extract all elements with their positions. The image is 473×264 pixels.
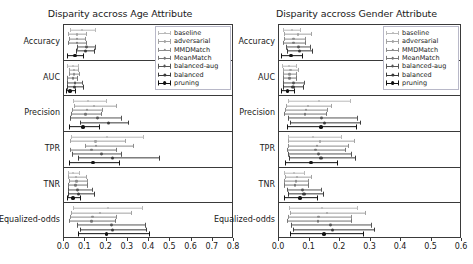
error-bar-cap-left (281, 53, 282, 58)
error-bar-cap-right (102, 108, 103, 112)
error-bar-cap-right (92, 187, 93, 192)
data-point-adversarial (94, 140, 96, 142)
error-bar-cap-left (69, 124, 70, 129)
data-point-adversarial (289, 69, 291, 71)
error-bar-cap-right (331, 104, 332, 108)
error-bar-cap-right (101, 112, 102, 116)
data-point-balanced (111, 228, 114, 231)
error-bar-cap-right (308, 183, 309, 187)
legend-item-balanced[interactable]: balanced (158, 70, 227, 78)
legend-item-pruning[interactable]: pruning (386, 79, 455, 87)
metric-label-precision: Precision (239, 108, 275, 117)
x-tick-label: 0.4 (142, 242, 155, 251)
error-bar-line (68, 185, 88, 186)
error-bar-line (284, 172, 304, 173)
error-bar-cap-right (106, 99, 107, 103)
error-bar-cap-left (70, 28, 71, 32)
legend-item-MeanMatch[interactable]: MeanMatch (386, 54, 455, 62)
error-bar-cap-left (284, 32, 285, 36)
data-point-MeanMatch (294, 184, 297, 187)
data-point-baseline (81, 29, 83, 31)
legend-item-MMDMatch[interactable]: MMDMatch (158, 46, 227, 54)
legend-item-MMDMatch[interactable]: MMDMatch (386, 46, 455, 54)
error-bar-cap-left (288, 192, 289, 197)
error-bar-cap-right (149, 231, 150, 236)
data-point-pruning (73, 54, 77, 58)
error-bar-cap-right (128, 120, 129, 125)
x-tick-label: 0.1 (78, 242, 91, 251)
data-point-baseline (318, 100, 320, 102)
error-bar-cap-right (294, 89, 295, 94)
error-bar-line (80, 122, 129, 123)
metric-label-accuracy: Accuracy (238, 37, 275, 46)
error-bar-line (288, 141, 355, 142)
data-point-adversarial (319, 140, 321, 142)
legend-item-balanced-aug[interactable]: balanced-aug (386, 62, 455, 70)
data-point-balanced (84, 50, 87, 53)
error-bar-line (70, 149, 117, 150)
error-bar-cap-right (119, 160, 120, 165)
error-bar-cap-right (311, 32, 312, 36)
error-bar-cap-left (284, 183, 285, 187)
error-bar-cap-right (337, 160, 338, 165)
legend-label: pruning (174, 79, 199, 87)
data-point-balanced (111, 157, 114, 160)
error-bar-line (68, 189, 93, 190)
error-bar-cap-right (121, 152, 122, 157)
error-bar-cap-left (290, 120, 291, 125)
error-bar-cap-right (351, 219, 352, 223)
error-bar-cap-left (76, 49, 77, 54)
error-bar-cap-right (374, 227, 375, 232)
error-bar-cap-left (69, 160, 70, 165)
panel-age: Disparity accross Age AttributeAccuracyA… (0, 0, 240, 264)
data-point-pruning (71, 196, 75, 200)
error-bar-cap-left (71, 135, 72, 139)
metric-row-precision (279, 96, 460, 132)
legend-item-pruning[interactable]: pruning (158, 79, 227, 87)
data-point-adversarial (326, 212, 328, 214)
error-bar-line (70, 141, 125, 142)
data-point-pruning (289, 54, 293, 58)
x-tick-mark (339, 238, 340, 241)
data-point-MeanMatch (292, 42, 295, 45)
error-bar-cap-right (312, 49, 313, 54)
x-tick-label: 0.1 (302, 242, 315, 251)
data-point-balanced-aug (320, 117, 323, 120)
error-bar-cap-left (284, 196, 285, 201)
error-bar-cap-right (83, 53, 84, 58)
legend-item-balanced[interactable]: balanced (386, 70, 455, 78)
legend: baselineadversarialMMDMatchMeanMatchbala… (383, 26, 459, 90)
metric-label-precision: Precision (24, 108, 60, 117)
data-point-pruning (309, 161, 313, 165)
error-bar-line (285, 177, 312, 178)
error-bar-cap-right (159, 156, 160, 161)
error-bar-line (288, 217, 353, 218)
x-tick-mark (461, 238, 462, 241)
metric-row-tnr (64, 168, 232, 204)
legend-item-adversarial[interactable]: adversarial (158, 37, 227, 45)
legend-item-balanced-aug[interactable]: balanced-aug (158, 62, 227, 70)
x-tick-label: 0.3 (363, 242, 376, 251)
x-tick-label: 0.5 (424, 242, 437, 251)
metric-row-equalized-odds (64, 203, 232, 239)
error-bar-cap-right (351, 152, 352, 157)
data-point-pruning (91, 161, 95, 165)
legend-item-baseline[interactable]: baseline (386, 29, 455, 37)
data-point-balanced (331, 228, 334, 231)
legend-item-MeanMatch[interactable]: MeanMatch (158, 54, 227, 62)
legend-item-adversarial[interactable]: adversarial (386, 37, 455, 45)
error-bar-cap-right (95, 28, 96, 32)
error-bar-cap-left (289, 156, 290, 161)
data-point-MeanMatch (90, 220, 93, 223)
legend-item-baseline[interactable]: baseline (158, 29, 227, 37)
error-bar-line (70, 30, 96, 31)
legend-marker-icon (386, 38, 399, 45)
legend-label: pruning (402, 79, 427, 87)
legend-marker-icon (158, 46, 171, 53)
panel-gender: Disparity accross Gender AttributeAccura… (240, 0, 473, 264)
x-tick-mark (106, 238, 107, 241)
error-bar-line (290, 233, 365, 234)
error-bar-cap-right (131, 211, 132, 215)
error-bar-cap-left (77, 223, 78, 228)
legend-marker-icon (158, 71, 171, 78)
